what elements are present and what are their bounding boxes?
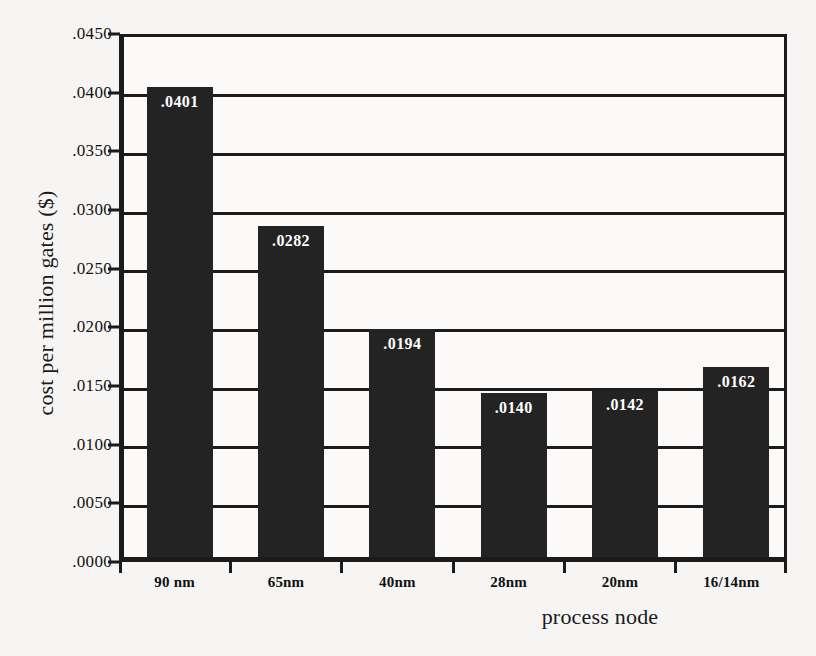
bar-value-label: .0142: [592, 396, 658, 414]
x-tick-label: 16/14nm: [703, 574, 759, 591]
bar: .0282: [258, 226, 324, 557]
y-tick-label: .0400: [38, 83, 112, 103]
x-tick-label: 40nm: [379, 574, 416, 591]
bar: .0140: [481, 393, 547, 557]
bar: .0401: [147, 87, 213, 558]
x-axis-tick-labels: 90 nm65nm40nm28nm20nm16/14nm: [119, 574, 787, 602]
y-tick-label: .0300: [38, 200, 112, 220]
y-tick-label: .0000: [38, 552, 112, 572]
bar: .0142: [592, 390, 658, 557]
y-tick-label: .0050: [38, 493, 112, 513]
x-axis-tick-mark: [784, 562, 787, 573]
y-tick-label: .0200: [38, 317, 112, 337]
bar-value-label: .0401: [147, 93, 213, 111]
y-axis-tick-labels: .0000.0050.0100.0150.0200.0250.0300.0350…: [30, 0, 112, 656]
x-tick-label: 90 nm: [154, 574, 195, 591]
bar: .0194: [369, 329, 435, 557]
x-axis-tick-mark: [229, 562, 232, 573]
x-axis-tick-mark: [119, 562, 122, 573]
bar: .0162: [703, 367, 769, 557]
x-tick-label: 65nm: [268, 574, 305, 591]
bars-group: .0401.0282.0194.0140.0142.0162: [124, 37, 784, 557]
bar-value-label: .0162: [703, 373, 769, 391]
x-axis-title: process node: [542, 604, 659, 630]
y-tick-label: .0150: [38, 376, 112, 396]
x-axis-tick-mark: [452, 562, 455, 573]
y-tick-label: .0350: [38, 141, 112, 161]
y-tick-label: .0100: [38, 435, 112, 455]
bar-value-label: .0140: [481, 399, 547, 417]
x-tick-label: 20nm: [602, 574, 639, 591]
bar-value-label: .0282: [258, 232, 324, 250]
x-axis-tick-mark: [563, 562, 566, 573]
x-tick-label: 28nm: [490, 574, 527, 591]
y-tick-label: .0450: [38, 24, 112, 44]
x-axis-tick-mark: [674, 562, 677, 573]
plot-area: .0401.0282.0194.0140.0142.0162: [119, 34, 787, 562]
bar-value-label: .0194: [369, 335, 435, 353]
y-tick-label: .0250: [38, 259, 112, 279]
x-axis-tick-mark: [340, 562, 343, 573]
bar-chart: cost per million gates ($) .0000.0050.01…: [0, 0, 816, 656]
